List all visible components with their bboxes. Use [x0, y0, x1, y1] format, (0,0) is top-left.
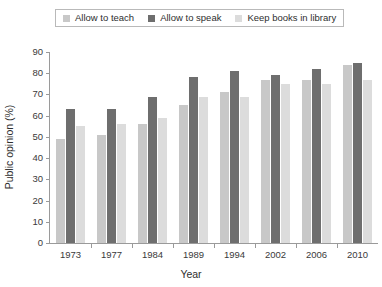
x-axis-tick: [132, 244, 133, 248]
y-axis-tick-label: 50: [32, 132, 43, 142]
legend-swatch-icon: [235, 15, 242, 22]
bar: [97, 135, 106, 243]
legend-label: Keep books in library: [247, 13, 336, 23]
y-axis-tick-label: 40: [32, 153, 43, 163]
legend-label: Allow to teach: [75, 13, 134, 23]
y-axis-tick: [46, 52, 50, 53]
legend-entry[interactable]: Keep books in library: [235, 13, 336, 23]
y-axis-tick-label: 70: [32, 90, 43, 100]
x-axis-tick-label: 1989: [183, 250, 204, 260]
legend-label: Allow to speak: [160, 13, 221, 23]
bar: [199, 97, 208, 243]
legend-swatch-icon: [148, 15, 155, 22]
y-axis-tick-label: 30: [32, 175, 43, 185]
x-axis-tick: [255, 244, 256, 248]
y-axis-tick-label: 90: [32, 47, 43, 57]
x-axis-tick: [337, 244, 338, 248]
bar: [230, 71, 239, 243]
bar: [261, 80, 270, 243]
y-axis-tick: [46, 179, 50, 180]
y-axis-tick-label: 20: [32, 196, 43, 206]
y-axis-tick: [46, 243, 50, 244]
plot-area: 0102030405060708090197319771984198919942…: [49, 52, 378, 244]
x-axis-tick: [91, 244, 92, 248]
y-axis-title: Public opinion (%): [3, 105, 15, 190]
y-axis-tick-label: 10: [32, 217, 43, 227]
y-axis-tick-label: 80: [32, 68, 43, 78]
bar: [66, 109, 75, 243]
x-axis-title: Year: [0, 268, 382, 280]
legend-entry[interactable]: Allow to teach: [63, 13, 134, 23]
legend-swatch-icon: [63, 15, 70, 22]
y-axis-tick: [46, 73, 50, 74]
y-axis-tick-label: 0: [38, 238, 43, 248]
bar: [76, 126, 85, 243]
bar: [363, 80, 372, 243]
y-axis-tick: [46, 201, 50, 202]
x-axis-tick-label: 1994: [224, 250, 245, 260]
bar: [158, 118, 167, 243]
bar: [148, 97, 157, 243]
bar: [353, 63, 362, 243]
x-axis-tick-label: 1984: [142, 250, 163, 260]
bar: [189, 77, 198, 243]
y-axis-tick-label: 60: [32, 111, 43, 121]
bar: [56, 139, 65, 243]
bar: [343, 65, 352, 243]
x-axis-tick: [296, 244, 297, 248]
x-axis-tick: [173, 244, 174, 248]
bar: [281, 84, 290, 243]
bar: [138, 124, 147, 243]
x-axis-tick-label: 2006: [306, 250, 327, 260]
bar: [220, 92, 229, 243]
bar: [322, 84, 331, 243]
legend-entry[interactable]: Allow to speak: [148, 13, 221, 23]
x-axis-tick-label: 1973: [60, 250, 81, 260]
y-axis-tick: [46, 116, 50, 117]
y-axis-tick: [46, 137, 50, 138]
bar: [271, 75, 280, 243]
bar: [107, 109, 116, 243]
x-axis-tick: [214, 244, 215, 248]
chart-legend: Allow to teachAllow to speakKeep books i…: [55, 9, 344, 27]
y-axis-tick: [46, 222, 50, 223]
x-axis-tick-label: 2002: [265, 250, 286, 260]
bar: [179, 105, 188, 243]
bar: [240, 97, 249, 243]
bar: [117, 124, 126, 243]
x-axis-tick-label: 1977: [101, 250, 122, 260]
x-axis-tick-label: 2010: [347, 250, 368, 260]
bar: [302, 80, 311, 243]
y-axis-tick: [46, 94, 50, 95]
bar: [312, 69, 321, 243]
bar-chart-figure: Allow to teachAllow to speakKeep books i…: [0, 0, 382, 287]
y-axis-tick: [46, 158, 50, 159]
